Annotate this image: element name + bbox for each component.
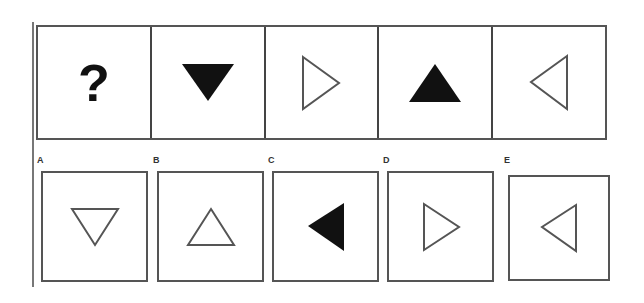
sequence-cell-5 [493, 27, 605, 138]
option-b[interactable] [157, 171, 264, 282]
filled-triangle-up-icon [405, 61, 465, 105]
sequence-cell-2 [152, 27, 266, 138]
option-c[interactable] [272, 171, 379, 282]
option-label-d: D [383, 155, 390, 165]
outline-triangle-right-icon [419, 200, 463, 254]
sequence-cell-4 [379, 27, 493, 138]
option-e[interactable] [508, 175, 610, 281]
outline-triangle-left-icon [537, 201, 581, 255]
option-a[interactable] [41, 171, 148, 282]
left-margin-rule [32, 22, 34, 287]
option-label-b: B [153, 155, 160, 165]
sequence-cell-3 [266, 27, 380, 138]
filled-triangle-left-icon [304, 200, 348, 254]
outline-triangle-up-icon [184, 205, 238, 249]
sequence-cell-1: ? [38, 27, 152, 138]
filled-triangle-down-icon [178, 61, 238, 105]
outline-triangle-down-icon [68, 205, 122, 249]
sequence-row: ? [36, 25, 607, 140]
option-label-c: C [268, 155, 275, 165]
option-d[interactable] [387, 171, 494, 282]
outline-triangle-right-icon [299, 53, 343, 113]
option-label-e: E [504, 155, 510, 165]
outline-triangle-left-icon [527, 53, 571, 113]
option-label-a: A [37, 155, 44, 165]
question-mark: ? [78, 57, 110, 109]
